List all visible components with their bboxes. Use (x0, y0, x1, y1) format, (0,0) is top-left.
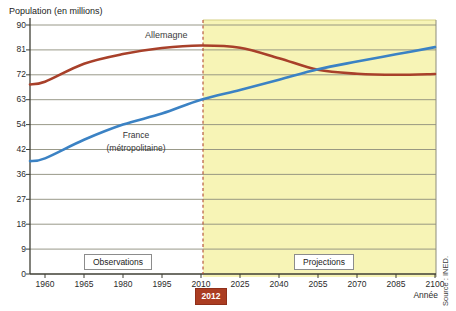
x-tick-label: 2085 (378, 279, 414, 289)
x-tick-label: 2025 (222, 279, 258, 289)
france-curve-label-line1: France (92, 129, 180, 142)
year-2012-badge: 2012 (195, 288, 227, 305)
y-tick-label: 18 (2, 219, 26, 229)
x-axis-unit-label: Année (402, 290, 438, 300)
x-tick-label: 1995 (144, 279, 180, 289)
y-tick-label: 36 (2, 169, 26, 179)
y-tick-label: 72 (2, 69, 26, 79)
source-label: Source : INED. (441, 224, 450, 306)
y-tick-label: 63 (2, 94, 26, 104)
france-curve-label-line2: (métropolitaine) (92, 142, 180, 155)
y-tick-label: 90 (2, 20, 26, 30)
y-tick-label: 9 (2, 244, 26, 254)
x-tick-label: 2010 (183, 279, 219, 289)
projection-zone (203, 20, 436, 277)
germany-curve-label: Allemagne (145, 30, 188, 40)
chart-svg (0, 0, 456, 311)
projections-box: Projections (294, 254, 354, 270)
y-axis-title: Population (en millions) (9, 6, 103, 16)
y-tick-label: 27 (2, 194, 26, 204)
y-tick-label: 42 (2, 144, 26, 154)
observations-box: Observations (84, 254, 152, 270)
y-tick-label: 54 (2, 119, 26, 129)
y-tick-label: 81 (2, 44, 26, 54)
x-tick-label: 1980 (105, 279, 141, 289)
x-tick-label: 2055 (300, 279, 336, 289)
x-tick-label: 1960 (27, 279, 63, 289)
x-tick-label: 2070 (339, 279, 375, 289)
population-projection-figure: Population (en millions) Allemagne Franc… (0, 0, 456, 311)
x-tick-label: 1965 (66, 279, 102, 289)
x-tick-label: 2040 (261, 279, 297, 289)
x-tick-label: 2100 (417, 279, 453, 289)
france-curve-label: France (métropolitaine) (92, 129, 180, 154)
y-tick-label: 0 (2, 269, 26, 279)
